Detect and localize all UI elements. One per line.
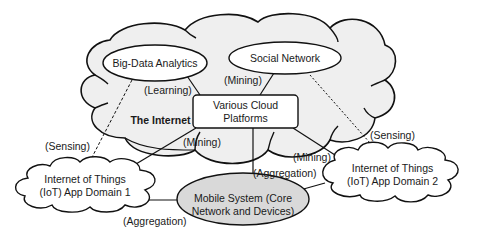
iot-domain-1-line2: (IoT) App Domain 1 — [30, 186, 140, 199]
mobile-system-label: Mobile System (Core Network and Devices) — [183, 192, 303, 217]
cloud-platforms-label: Various Cloud Platforms — [193, 99, 298, 124]
mobile-system-line2: Network and Devices) — [183, 205, 303, 218]
internet-label: The Internet — [128, 114, 193, 126]
mining-iot2-edge-label: (Mining) — [293, 151, 331, 163]
sensing-right-edge-label: (Sensing) — [370, 129, 415, 141]
iot-domain-1-label: Internet of Things (IoT) App Domain 1 — [30, 173, 140, 198]
aggregation-center-edge-label: (Aggregation) — [253, 167, 317, 179]
mining-social-edge-label: (Mining) — [224, 74, 262, 86]
sensing-left-edge-label: (Sensing) — [45, 140, 90, 152]
iot-domain-2-line2: (IoT) App Domain 2 — [335, 175, 450, 188]
aggregation-left-edge-label: (Aggregation) — [123, 215, 187, 227]
iot-domain-1-line1: Internet of Things — [30, 173, 140, 186]
mobile-system-line1: Mobile System (Core — [183, 192, 303, 205]
cloud-platforms-line1: Various Cloud — [193, 99, 298, 112]
learning-edge-label: (Learning) — [144, 84, 192, 96]
iot-domain-2-line1: Internet of Things — [335, 162, 450, 175]
iot-domain-2-label: Internet of Things (IoT) App Domain 2 — [335, 162, 450, 187]
big-data-analytics-label: Big-Data Analytics — [103, 57, 207, 69]
cloud-platforms-line2: Platforms — [193, 112, 298, 125]
social-network-label: Social Network — [229, 52, 341, 64]
internet-cloud-shape — [81, 14, 395, 164]
mining-iot1-edge-label: (Mining) — [183, 136, 221, 148]
iot-cloud-diagram: Big-Data Analytics Social Network Variou… — [0, 0, 478, 241]
